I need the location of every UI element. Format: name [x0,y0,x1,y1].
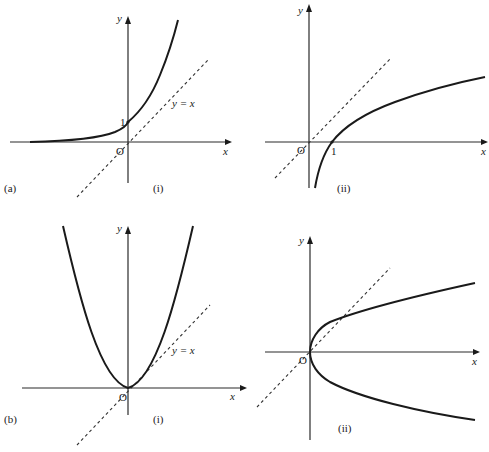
panel-b-ii: y x O (ii) [257,234,480,440]
panel-label: (ii) [338,422,352,435]
panel-a-ii: y x O 1 (ii) [265,4,488,195]
line-y-equals-x [257,268,390,407]
figure-canvas: y x O 1 y = x (a) (i) y x O 1 (ii) y x O… [0,0,489,452]
logarithmic-curve [315,77,485,188]
group-label: (a) [4,182,17,195]
intercept-point [330,140,333,143]
y-axis-arrow-icon [306,4,312,12]
y-axis-arrow-icon [307,236,313,244]
intercept-point [126,120,129,123]
y-axis-label: y [116,12,122,24]
y-axis-label: y [116,222,122,234]
origin-label: O [119,391,127,403]
group-label: (b) [4,413,17,426]
y-axis-label: y [298,234,304,246]
line-label: y = x [171,344,195,356]
panel-label: (i) [153,413,164,426]
exponential-curve [30,20,178,142]
origin-label: O [297,144,305,156]
panel-b-i: y x O y = x (b) (i) [4,222,247,445]
x-axis-arrow-icon [240,385,247,391]
y-axis-arrow-icon [125,226,131,234]
panel-a-i: y x O 1 y = x (a) (i) [4,12,232,197]
origin-label: O [299,354,307,366]
line-y-equals-x [77,60,208,197]
line-label: y = x [171,97,195,109]
origin-label: O [116,145,124,157]
x-axis-label: x [471,355,477,367]
intercept-label: 1 [120,116,126,128]
y-axis-arrow-icon [125,16,131,24]
x-axis-label: x [229,390,235,402]
line-y-equals-x [275,58,391,178]
panel-label: (i) [153,182,164,195]
panel-label: (ii) [337,182,351,195]
x-axis-label: x [480,145,486,157]
intercept-label: 1 [331,145,337,157]
y-axis-label: y [297,4,303,16]
x-axis-label: x [222,145,228,157]
